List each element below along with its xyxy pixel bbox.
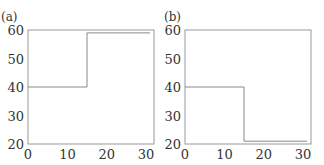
- panel-a-xtick-0: 0: [24, 147, 32, 162]
- panel-a: (a) 20 30 40 50 60 0 10 20 30: [1, 10, 154, 162]
- panel-a-ytick-40: 40: [7, 80, 24, 95]
- panel-b-xtick-30: 30: [295, 147, 312, 162]
- panel-b-y-ticks: 20 30 40 50 60: [164, 23, 181, 152]
- panel-b-xtick-0: 0: [181, 147, 189, 162]
- panel-a-y-ticks: 20 30 40 50 60: [7, 23, 24, 152]
- panel-a-xtick-10: 10: [59, 147, 76, 162]
- panel-b-step-line: [185, 87, 307, 141]
- panel-b-xtick-20: 20: [256, 147, 273, 162]
- panel-b: (b) 20 30 40 50 60 0 10 20 30: [164, 10, 311, 162]
- panel-b-ytick-50: 50: [164, 52, 181, 67]
- panel-a-ytick-60: 60: [7, 23, 24, 38]
- panel-a-ytick-30: 30: [7, 109, 24, 124]
- panel-a-xtick-20: 20: [99, 147, 116, 162]
- panel-b-xtick-10: 10: [216, 147, 233, 162]
- panel-a-ytick-20: 20: [7, 137, 24, 152]
- panel-b-ytick-30: 30: [164, 109, 181, 124]
- panel-b-ytick-40: 40: [164, 80, 181, 95]
- panel-b-x-ticks: 0 10 20 30: [181, 147, 312, 162]
- figure: (a) 20 30 40 50 60 0 10 20 30 (b) 20 30 …: [0, 0, 324, 165]
- panel-b-label: (b): [164, 10, 181, 24]
- panel-b-ytick-20: 20: [164, 137, 181, 152]
- panel-a-step-line: [28, 33, 150, 87]
- panel-a-ytick-50: 50: [7, 52, 24, 67]
- panel-b-ytick-60: 60: [164, 23, 181, 38]
- panel-a-label: (a): [1, 10, 18, 24]
- panel-a-x-ticks: 0 10 20 30: [24, 147, 155, 162]
- panel-a-xtick-30: 30: [138, 147, 155, 162]
